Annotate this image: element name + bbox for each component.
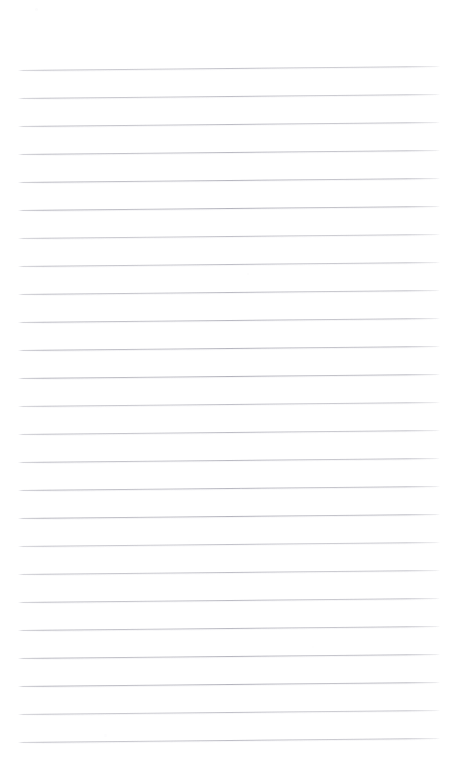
writing-area[interactable] xyxy=(18,70,440,760)
notebook-page xyxy=(0,0,458,777)
